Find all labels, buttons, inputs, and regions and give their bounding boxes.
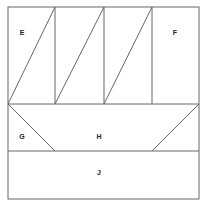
hull-diagonal-left: [8, 104, 55, 151]
label-j: J: [97, 169, 101, 176]
label-f: F: [173, 29, 178, 36]
sail-diagonal-1: [8, 7, 55, 104]
sail-diagonal-2: [55, 7, 104, 104]
label-g: G: [19, 133, 25, 140]
pattern-diagram: E F G H J: [0, 0, 205, 207]
sail-diagonal-3: [104, 7, 152, 104]
hull-diagonal-right: [152, 104, 199, 151]
label-h: H: [96, 133, 101, 140]
label-e: E: [20, 29, 25, 36]
